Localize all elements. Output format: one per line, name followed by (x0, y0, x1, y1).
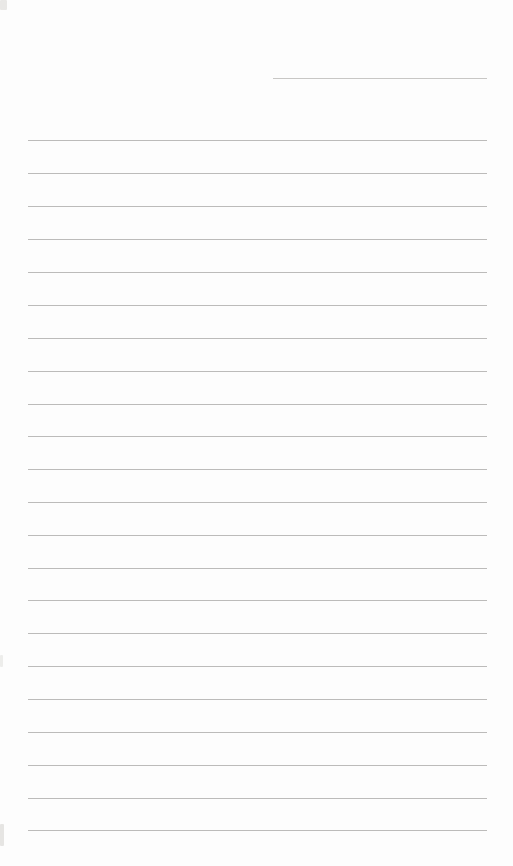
ruled-line (28, 305, 487, 306)
ruled-line (28, 765, 487, 766)
scanned-lined-page (0, 0, 513, 866)
edge-smudge (0, 655, 3, 667)
ruled-line (28, 633, 487, 634)
corner-scan-mark (0, 0, 7, 10)
ruled-line (28, 535, 487, 536)
ruled-line (28, 206, 487, 207)
ruled-line (28, 798, 487, 799)
ruled-line (28, 732, 487, 733)
ruled-line (28, 239, 487, 240)
ruled-line (28, 371, 487, 372)
ruled-line (28, 699, 487, 700)
ruled-line (28, 469, 487, 470)
header-short-line (273, 78, 487, 79)
ruled-line (28, 338, 487, 339)
ruled-line (28, 404, 487, 405)
ruled-line (28, 600, 487, 601)
ruled-line (28, 272, 487, 273)
ruled-line (28, 502, 487, 503)
ruled-line (28, 140, 487, 141)
ruled-line (28, 173, 487, 174)
ruled-line (28, 436, 487, 437)
ruled-line (28, 666, 487, 667)
ruled-line (28, 830, 487, 831)
ruled-line (28, 568, 487, 569)
edge-smudge (0, 824, 4, 846)
